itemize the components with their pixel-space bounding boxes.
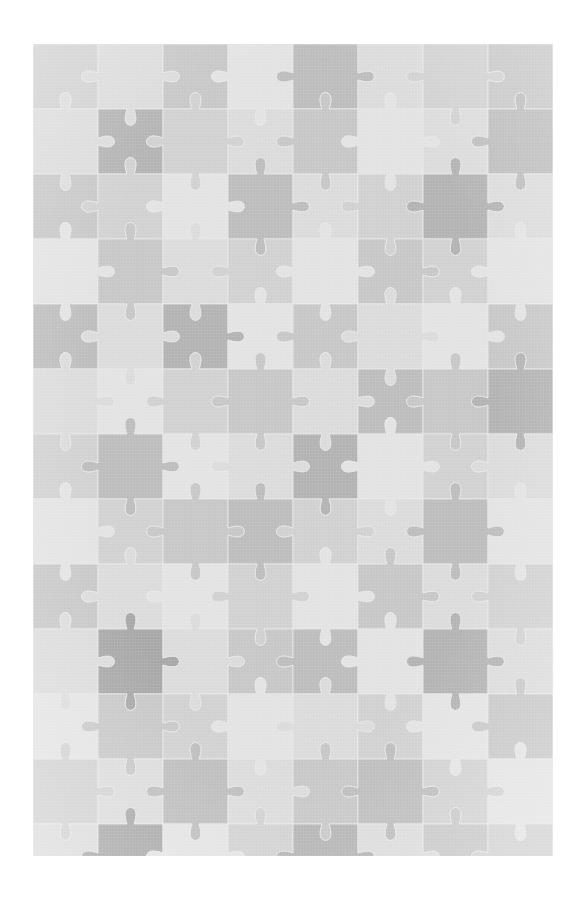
page-root xyxy=(0,0,583,903)
puzzle-pieces-svg xyxy=(33,44,553,856)
puzzle-pattern-region xyxy=(33,44,553,856)
puzzle-piece-group xyxy=(33,44,553,856)
